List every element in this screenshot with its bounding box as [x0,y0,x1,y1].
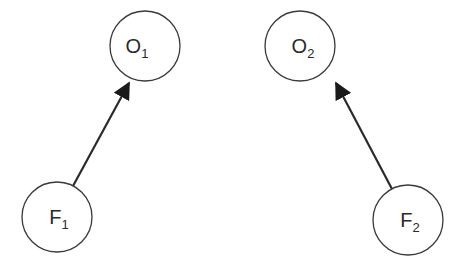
edge-f1-to-o1 [73,83,129,186]
node-f2-subscript: 2 [412,220,419,235]
edge-f2-to-o2 [336,83,392,189]
node-o2-letter: O [292,35,308,57]
node-f2: F2 [373,185,443,255]
node-o2: O2 [265,11,335,81]
node-f1: F1 [22,182,92,252]
node-f1-subscript: 1 [61,217,68,232]
node-o1-subscript: 1 [141,46,148,61]
node-o2-subscript: 2 [307,46,314,61]
node-f1-letter: F [49,206,61,228]
diagram-canvas: O1 O2 F1 F2 [0,0,465,265]
node-o1-letter: O [126,35,142,57]
node-o1: O1 [110,11,180,81]
node-f2-letter: F [400,209,412,231]
